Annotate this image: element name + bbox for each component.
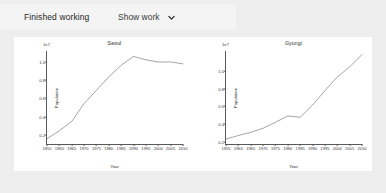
show-work-label: Show work <box>118 12 160 22</box>
y-tick-label: 0.4 <box>39 114 45 119</box>
x-tick-label: 1980 <box>104 146 113 151</box>
chart-gyungi: Gyungi 1e7 Population 0.20.40.60.81.0195… <box>193 37 372 171</box>
x-tick-label: 1995 <box>320 146 329 151</box>
x-tick-label: 2005 <box>345 146 354 151</box>
x-tick-label: 2005 <box>166 146 175 151</box>
y-tick-mark <box>45 134 47 135</box>
line-series-gyungi <box>226 51 362 144</box>
x-tick-label: 1965 <box>67 146 76 151</box>
x-tick-label: 1955 <box>42 146 51 151</box>
x-tick-label: 2000 <box>154 146 163 151</box>
x-tick-label: 2010 <box>357 146 366 151</box>
x-tick-label: 2000 <box>333 146 342 151</box>
finished-working-label: Finished working <box>24 12 89 22</box>
x-tick-mark <box>158 144 159 146</box>
x-axis-label-seoul: Year <box>46 164 183 169</box>
x-tick-mark <box>325 144 326 146</box>
x-tick-mark <box>263 144 264 146</box>
x-tick-mark <box>349 144 350 146</box>
x-tick-label: 1970 <box>80 146 89 151</box>
x-tick-label: 1985 <box>117 146 126 151</box>
x-tick-mark <box>71 144 72 146</box>
y-tick-label: 0.8 <box>218 86 224 91</box>
y-tick-label: 1.0 <box>218 68 224 73</box>
x-tick-mark <box>238 144 239 146</box>
x-tick-mark <box>337 144 338 146</box>
x-tick-label: 1985 <box>296 146 305 151</box>
x-tick-label: 1990 <box>129 146 138 151</box>
figure-panel: Seoul 1e7 Population 0.20.40.60.81.01955… <box>14 37 372 171</box>
x-tick-mark <box>300 144 301 146</box>
x-tick-mark <box>183 144 184 146</box>
axes-gyungi: Population 0.20.40.60.81.019551960196519… <box>225 51 362 145</box>
x-tick-label: 1955 <box>221 146 230 151</box>
show-work-toggle[interactable]: Show work <box>118 4 236 30</box>
x-tick-mark <box>96 144 97 146</box>
y-tick-mark <box>45 116 47 117</box>
x-tick-label: 1980 <box>283 146 292 151</box>
chart-seoul: Seoul 1e7 Population 0.20.40.60.81.01955… <box>14 37 193 171</box>
y-tick-mark <box>45 80 47 81</box>
x-axis-label-gyungi: Year <box>225 164 362 169</box>
y-exponent-label-seoul: 1e7 <box>43 42 50 47</box>
line-series-seoul <box>47 51 183 144</box>
x-tick-mark <box>250 144 251 146</box>
x-tick-mark <box>121 144 122 146</box>
y-tick-label: 0.4 <box>218 122 224 127</box>
chevron-down-icon[interactable] <box>167 13 176 22</box>
y-tick-mark <box>224 124 226 125</box>
y-tick-mark <box>224 88 226 89</box>
chart-title-seoul: Seoul <box>46 40 183 46</box>
x-tick-label: 2010 <box>178 146 187 151</box>
x-tick-mark <box>312 144 313 146</box>
x-tick-mark <box>362 144 363 146</box>
y-tick-mark <box>224 106 226 107</box>
x-tick-mark <box>226 144 227 146</box>
y-tick-label: 0.2 <box>218 140 224 145</box>
x-tick-mark <box>146 144 147 146</box>
x-tick-label: 1960 <box>55 146 64 151</box>
y-tick-label: 0.6 <box>39 96 45 101</box>
y-tick-mark <box>45 98 47 99</box>
x-tick-mark <box>108 144 109 146</box>
y-tick-label: 0.2 <box>39 132 45 137</box>
chart-title-gyungi: Gyungi <box>225 40 362 46</box>
y-tick-label: 0.6 <box>218 104 224 109</box>
axes-seoul: Population 0.20.40.60.81.019551960196519… <box>46 51 183 145</box>
x-tick-label: 1995 <box>141 146 150 151</box>
x-tick-mark <box>275 144 276 146</box>
x-tick-mark <box>84 144 85 146</box>
y-tick-mark <box>224 70 226 71</box>
y-tick-mark <box>45 62 47 63</box>
x-tick-label: 1970 <box>259 146 268 151</box>
y-tick-mark <box>224 142 226 143</box>
x-tick-mark <box>47 144 48 146</box>
y-exponent-label-gyungi: 1e7 <box>222 42 229 47</box>
x-tick-label: 1975 <box>271 146 280 151</box>
x-tick-mark <box>287 144 288 146</box>
x-tick-label: 1975 <box>92 146 101 151</box>
x-tick-mark <box>59 144 60 146</box>
x-tick-label: 1965 <box>246 146 255 151</box>
x-tick-mark <box>133 144 134 146</box>
x-tick-mark <box>170 144 171 146</box>
x-tick-label: 1960 <box>234 146 243 151</box>
y-tick-label: 0.8 <box>39 78 45 83</box>
y-tick-label: 1.0 <box>39 59 45 64</box>
x-tick-label: 1990 <box>308 146 317 151</box>
